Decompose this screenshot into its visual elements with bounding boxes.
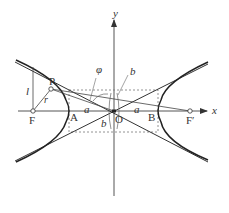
label-l: l (26, 85, 29, 97)
label-F-prime: F′ (186, 114, 195, 126)
label-O: O (115, 113, 123, 125)
label-A: A (70, 111, 78, 123)
label-P: P (49, 75, 55, 87)
x-axis-label: x (211, 104, 217, 116)
label-r: r (44, 94, 48, 105)
label-a-left: a (84, 103, 90, 115)
y-axis-label: y (112, 7, 118, 19)
label-b-bottom: b (101, 117, 107, 129)
label-F: F (29, 114, 35, 126)
label-phi: φ (96, 63, 102, 75)
hyperbola-diagram: x y P F F′ A B O a a b b l r φ (0, 0, 229, 213)
label-a-right: a (134, 103, 140, 115)
label-b-top: b (130, 65, 136, 77)
label-B: B (148, 111, 155, 123)
